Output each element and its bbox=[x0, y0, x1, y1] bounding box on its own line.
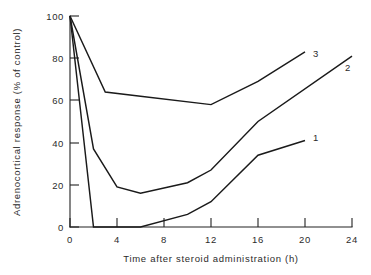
chart-figure: 100 80 60 40 20 0 0 4 8 12 16 20 24 Time… bbox=[0, 0, 371, 275]
y-tick-label: 60 bbox=[52, 95, 64, 106]
x-tick-label: 20 bbox=[299, 234, 311, 245]
y-axis-title: Adrenocortical response (% of control) bbox=[11, 28, 22, 216]
y-tick-label: 40 bbox=[52, 138, 64, 149]
x-tick-label: 0 bbox=[67, 234, 73, 245]
x-tick-label: 8 bbox=[161, 234, 167, 245]
y-tick-label: 0 bbox=[58, 222, 64, 233]
y-tick-labels: 100 80 60 40 20 0 bbox=[46, 11, 64, 233]
x-tick-label: 16 bbox=[252, 234, 264, 245]
y-tick-label: 80 bbox=[52, 53, 64, 64]
x-tick-labels: 0 4 8 12 16 20 24 bbox=[67, 234, 358, 245]
series-line-3 bbox=[70, 16, 305, 105]
series-line-1 bbox=[70, 16, 305, 227]
series-label-3: 3 bbox=[313, 48, 319, 59]
x-axis-ticks bbox=[70, 218, 352, 227]
series-label-2: 2 bbox=[345, 62, 351, 73]
x-axis-title: Time after steroid administration (h) bbox=[123, 253, 299, 264]
x-tick-label: 12 bbox=[205, 234, 217, 245]
y-axis-ticks bbox=[70, 16, 79, 227]
series-label-1: 1 bbox=[313, 132, 319, 143]
y-tick-label: 100 bbox=[46, 11, 64, 22]
line-chart-canvas: 100 80 60 40 20 0 0 4 8 12 16 20 24 Time… bbox=[0, 0, 371, 275]
y-tick-label: 20 bbox=[52, 180, 64, 191]
x-tick-label: 24 bbox=[346, 234, 358, 245]
x-tick-label: 4 bbox=[114, 234, 120, 245]
